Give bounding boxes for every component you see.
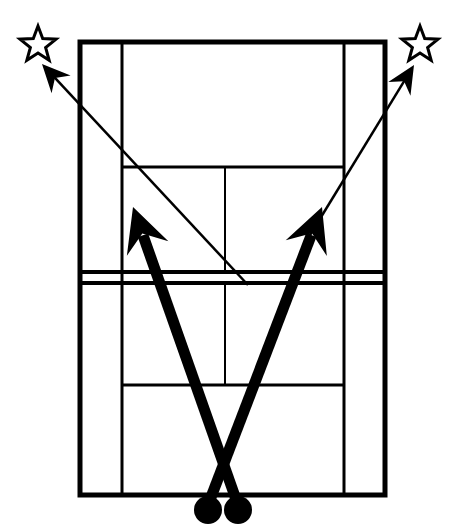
player-right-marker[interactable] xyxy=(224,496,252,524)
court-diagram-canvas xyxy=(0,0,450,532)
tennis-court-diagram xyxy=(0,0,450,532)
player-left-marker[interactable] xyxy=(194,496,222,524)
